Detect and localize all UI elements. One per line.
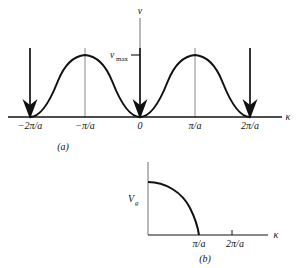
- panel-a-x-axis-label: κ: [286, 111, 291, 122]
- arrow-at-2pi-a: [243, 48, 258, 119]
- panel-b-x-tick-label-pi-a: π/a: [193, 238, 206, 249]
- physics-figure: v κ v max −2π/a −π/a 0 π/a 2π/a (a): [0, 0, 303, 268]
- panel-a-vmax-label: v max: [110, 50, 129, 63]
- x-tick-label-minus-pi-a: −π/a: [75, 120, 95, 131]
- panel-b-x-axis-label: κ: [274, 229, 279, 240]
- arrow-at-minus-2pi-a: [23, 48, 38, 119]
- panel-a-x-tick-labels: −2π/a −π/a 0 π/a 2π/a: [18, 120, 259, 131]
- panel-b-x-tick-label-2pi-a: 2π/a: [226, 238, 244, 249]
- vg-label-subscript: g: [135, 199, 139, 207]
- panel-a: v κ v max −2π/a −π/a 0 π/a 2π/a (a): [8, 5, 291, 153]
- vmax-label-base: v: [110, 50, 115, 60]
- x-tick-label-zero: 0: [138, 120, 143, 131]
- vmax-label-subscript: max: [116, 55, 129, 63]
- arrow-at-zero: [133, 48, 148, 119]
- panel-b: V g κ π/a 2π/a (b): [128, 162, 279, 265]
- panel-b-x-tick-labels: π/a 2π/a: [193, 238, 244, 249]
- x-tick-label-minus-2pi-a: −2π/a: [18, 120, 43, 131]
- figure-canvas: v κ v max −2π/a −π/a 0 π/a 2π/a (a): [0, 0, 303, 268]
- panel-b-y-axis-label: V g: [128, 193, 139, 207]
- panel-a-label: (a): [57, 141, 69, 153]
- panel-b-vg-curve: [148, 182, 199, 235]
- panel-b-label: (b): [199, 253, 211, 265]
- x-tick-label-2pi-a: 2π/a: [241, 120, 259, 131]
- x-tick-label-pi-a: π/a: [189, 120, 202, 131]
- panel-a-y-axis-label: v: [138, 5, 143, 16]
